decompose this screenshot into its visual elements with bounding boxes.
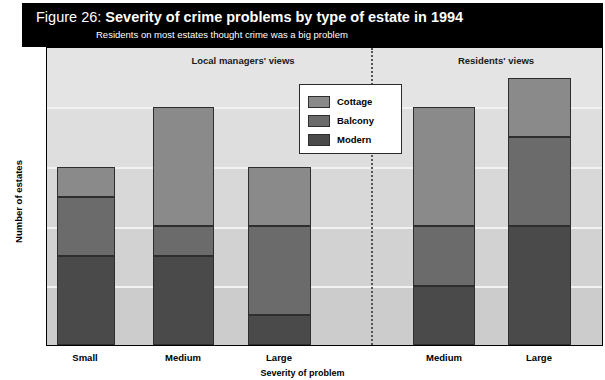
legend-swatch-balcony — [308, 115, 330, 127]
title-line: Figure 26: Severity of crime problems by… — [36, 8, 603, 26]
legend-item-balcony[interactable]: Balcony — [308, 111, 401, 130]
legend-label-modern: Modern — [337, 134, 371, 145]
figure-subtitle: Residents on most estates thought crime … — [36, 28, 603, 42]
legend-label-balcony: Balcony — [337, 115, 374, 126]
bar-segment-balcony[interactable] — [248, 226, 311, 315]
page-title: Severity of crime problems by type of es… — [105, 9, 463, 25]
x-tick-large-managers: Large — [266, 352, 292, 363]
bar-segment-cottage[interactable] — [508, 78, 571, 137]
legend-label-cottage: Cottage — [337, 96, 372, 107]
bar-small-managers[interactable] — [57, 167, 115, 345]
bar-segment-modern[interactable] — [248, 315, 311, 345]
bar-segment-cottage[interactable] — [153, 107, 214, 226]
group-header-residents: Residents' views — [458, 55, 534, 66]
bar-segment-balcony[interactable] — [413, 226, 475, 285]
bar-segment-modern[interactable] — [508, 226, 571, 345]
bar-segment-cottage[interactable] — [57, 167, 115, 197]
legend-swatch-modern — [308, 134, 330, 146]
bar-segment-balcony[interactable] — [508, 137, 571, 226]
x-tick-medium-residents: Medium — [426, 352, 462, 363]
bar-segment-balcony[interactable] — [153, 226, 214, 256]
x-axis-label: Severity of problem — [0, 368, 605, 378]
bar-large-managers[interactable] — [248, 167, 311, 345]
bar-medium-residents[interactable] — [413, 107, 475, 345]
bar-segment-modern[interactable] — [57, 256, 115, 345]
bar-segment-cottage[interactable] — [413, 107, 475, 226]
figure-container: Figure 26: Severity of crime problems by… — [0, 0, 605, 380]
legend-item-modern[interactable]: Modern — [308, 130, 401, 149]
bar-medium-managers[interactable] — [153, 107, 214, 345]
group-header-managers: Local managers' views — [191, 55, 294, 66]
x-tick-small-managers: Small — [72, 352, 97, 363]
figure-number: Figure 26: — [36, 9, 101, 25]
bar-segment-cottage[interactable] — [248, 167, 311, 226]
y-axis-label: Number of estates — [13, 132, 24, 272]
bar-segment-modern[interactable] — [153, 256, 214, 345]
bar-segment-balcony[interactable] — [57, 197, 115, 256]
title-banner: Figure 26: Severity of crime problems by… — [22, 3, 603, 47]
bar-segment-modern[interactable] — [413, 286, 475, 345]
legend-item-cottage[interactable]: Cottage — [308, 92, 401, 111]
legend-swatch-cottage — [308, 96, 330, 108]
legend: Cottage Balcony Modern — [299, 84, 402, 154]
x-tick-large-residents: Large — [526, 352, 552, 363]
bar-large-residents[interactable] — [508, 78, 571, 345]
x-tick-medium-managers: Medium — [165, 352, 201, 363]
